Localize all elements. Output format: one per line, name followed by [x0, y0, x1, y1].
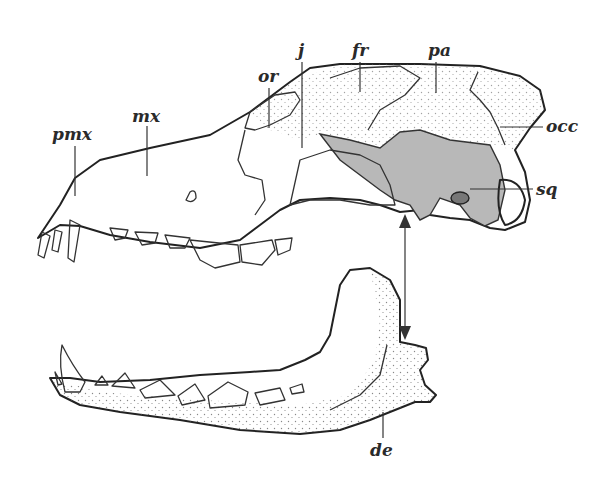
label-fr: fr [351, 40, 369, 60]
label-occ: occ [546, 116, 579, 136]
label-de: de [370, 440, 393, 460]
auditory-bulla [451, 192, 469, 204]
label-pmx: pmx [52, 124, 93, 144]
label-or: or [258, 66, 279, 86]
label-j: j [295, 40, 305, 60]
cranium [38, 64, 545, 268]
label-sq: sq [535, 179, 558, 199]
mandible [50, 268, 436, 434]
label-pa: pa [428, 40, 451, 60]
skull-diagram: pmx mx or j fr pa occ sq de [0, 0, 598, 489]
label-mx: mx [132, 106, 161, 126]
